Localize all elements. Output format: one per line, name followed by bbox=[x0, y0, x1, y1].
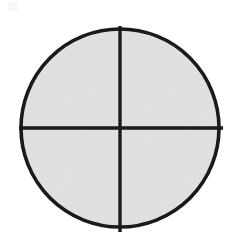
crosshair-circle-figure bbox=[0, 0, 240, 239]
figure-canvas bbox=[0, 0, 240, 239]
scan-artifact bbox=[8, 2, 18, 11]
